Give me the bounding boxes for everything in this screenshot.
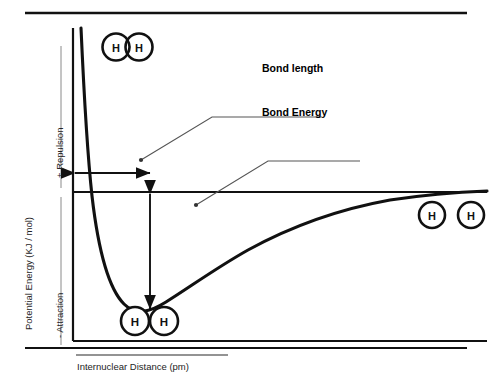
bond-energy-label: Bond Energy [262, 107, 327, 118]
bond-energy-leader-dot [194, 203, 198, 207]
atom-label-right: H [467, 210, 475, 222]
atom-pair-right: H H [419, 202, 484, 228]
atom-label-left: H [428, 210, 436, 222]
x-axis-label: Internuclear Distance (pm) [77, 362, 189, 372]
bond-energy-leader-line [196, 161, 360, 205]
atom-label-left: H [131, 316, 139, 328]
atom-label-right: H [160, 316, 168, 328]
bond-length-leader-line [141, 117, 322, 160]
bond-length-label: Bond length [262, 63, 323, 74]
diagram-canvas: H H H H H H [0, 0, 492, 384]
repulsion-region-label: + Repulsion [55, 128, 65, 178]
attraction-region-label: - Attraction [55, 293, 65, 338]
potential-energy-diagram: Internuclear Distance between two atoms [0, 0, 492, 384]
atom-pair-top: H H [103, 34, 153, 61]
bond-length-leader-dot [139, 158, 143, 162]
y-axis-label: Potential Energy (KJ / mol) [24, 217, 34, 330]
atom-label-left: H [112, 42, 120, 54]
atom-label-right: H [135, 42, 143, 54]
